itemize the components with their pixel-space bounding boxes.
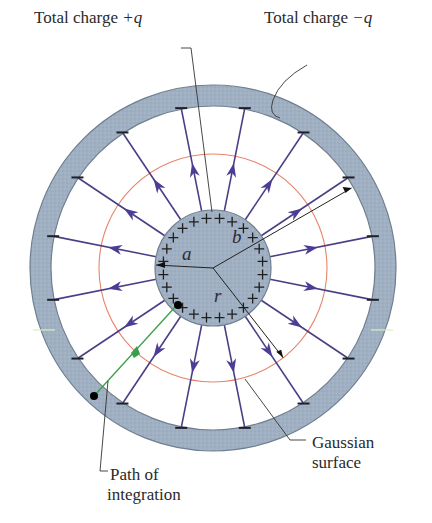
label-gaussian-surface: Gaussiansurface <box>312 433 374 473</box>
arrowhead-icon <box>124 316 138 328</box>
variable-r: r <box>214 285 221 307</box>
arrowhead-icon <box>261 343 273 357</box>
path-start-dot <box>174 301 182 309</box>
path-end-dot <box>90 392 98 400</box>
field-line <box>270 279 372 299</box>
field-line <box>123 133 181 219</box>
label-path-of-integration: Path ofintegration <box>110 465 181 505</box>
field-line <box>270 236 372 256</box>
variable-b: b <box>232 226 242 248</box>
field-line <box>78 178 164 236</box>
label-total-charge-positive: Total charge +q <box>34 8 142 28</box>
field-line <box>245 316 303 402</box>
field-line <box>54 279 156 299</box>
field-line <box>78 300 164 358</box>
field-line <box>261 300 347 358</box>
variable-a: a <box>182 243 192 265</box>
arrowhead-icon <box>288 209 302 221</box>
arrowhead-icon <box>124 209 138 221</box>
arrowhead-icon <box>154 179 166 193</box>
field-line <box>224 325 244 427</box>
arrowhead-icon <box>288 316 302 328</box>
field-line <box>224 109 244 211</box>
arrowhead-icon <box>261 179 273 193</box>
label-total-charge-negative: Total charge −q <box>264 8 372 28</box>
integration-path <box>90 301 182 400</box>
arrowhead-icon <box>154 343 166 357</box>
field-line <box>123 316 181 402</box>
field-line <box>54 236 156 256</box>
field-line <box>181 109 201 211</box>
arrowhead-icon <box>276 350 283 358</box>
field-line <box>245 133 303 219</box>
field-line <box>261 178 347 236</box>
field-line <box>181 325 201 427</box>
